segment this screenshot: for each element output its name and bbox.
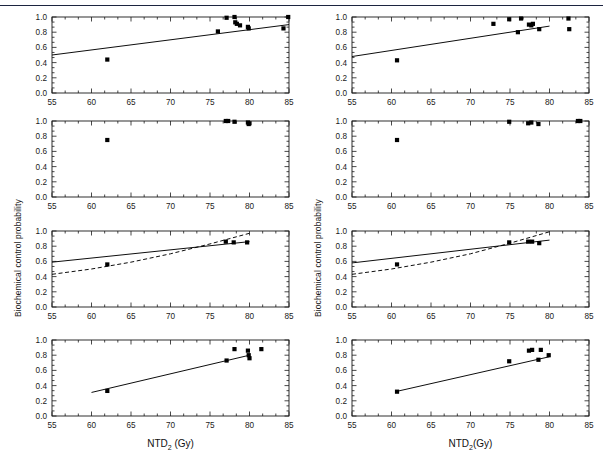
plot-frame <box>352 231 589 307</box>
plot-panel-r1c2: 556065707580850.00.20.40.60.81.0 <box>322 11 597 109</box>
y-tick-label: 0.8 <box>336 28 348 37</box>
data-point-marker <box>519 16 523 20</box>
y-tick-label: 1.0 <box>36 13 48 22</box>
y-tick-label: 1.0 <box>336 336 348 345</box>
fit-line-solid <box>395 357 549 392</box>
x-tick-label: 60 <box>87 421 97 430</box>
x-tick-label: 75 <box>205 202 215 211</box>
data-point-marker <box>246 349 250 353</box>
fit-line-solid <box>52 25 289 55</box>
data-point-marker <box>224 240 228 244</box>
data-point-marker <box>286 15 290 19</box>
x-axis-label-right-column: NTD2(Gy) <box>352 438 589 450</box>
data-point-marker <box>232 15 236 19</box>
data-point-marker <box>259 347 263 351</box>
data-point-marker <box>395 138 399 142</box>
y-tick-label: 0.6 <box>36 257 48 266</box>
data-point-marker <box>105 57 109 61</box>
x-tick-label: 85 <box>284 421 294 430</box>
x-tick-label: 65 <box>126 202 136 211</box>
plot-frame <box>52 121 289 197</box>
x-tick-label: 70 <box>466 312 476 321</box>
y-tick-label: 0.2 <box>36 178 48 187</box>
y-tick-label: 0.0 <box>36 193 48 202</box>
data-point-marker <box>245 240 249 244</box>
x-tick-label: 70 <box>466 202 476 211</box>
y-tick-label: 0.2 <box>336 288 348 297</box>
y-tick-label: 0.4 <box>336 163 348 172</box>
x-tick-label: 75 <box>205 98 215 107</box>
fit-line-solid <box>52 242 250 263</box>
data-point-marker <box>238 23 242 27</box>
x-tick-label: 85 <box>584 202 594 211</box>
x-axis-label-left-column: NTD2 (Gy) <box>52 438 289 450</box>
data-point-marker <box>395 390 399 394</box>
x-tick-label: 70 <box>166 312 176 321</box>
plot-frame <box>52 17 289 93</box>
y-tick-label: 0.6 <box>336 366 348 375</box>
x-tick-label: 65 <box>426 98 436 107</box>
y-tick-label: 0.0 <box>36 412 48 421</box>
x-tick-label: 65 <box>126 421 136 430</box>
y-tick-label: 0.6 <box>336 43 348 52</box>
x-tick-label: 70 <box>166 421 176 430</box>
data-point-marker <box>507 17 511 21</box>
plot-panel-r2c1: 556065707580850.00.20.40.60.81.0 <box>22 115 297 213</box>
data-point-marker <box>566 16 570 20</box>
data-point-marker <box>537 27 541 31</box>
y-tick-label: 0.8 <box>36 132 48 141</box>
fit-line-dashed <box>352 232 550 275</box>
y-tick-label: 0.0 <box>36 89 48 98</box>
x-tick-label: 55 <box>347 421 357 430</box>
x-tick-label: 70 <box>466 421 476 430</box>
x-tick-label: 85 <box>284 312 294 321</box>
data-point-marker <box>507 359 511 363</box>
x-axis-label-right-unit: (Gy) <box>473 438 492 449</box>
data-point-marker <box>536 122 540 126</box>
data-point-marker <box>395 58 399 62</box>
data-point-marker <box>507 120 511 124</box>
x-axis-label-left-base: NTD <box>147 438 168 449</box>
y-tick-label: 0.4 <box>36 273 48 282</box>
x-tick-label: 80 <box>245 202 255 211</box>
x-tick-label: 85 <box>584 98 594 107</box>
y-tick-label: 0.8 <box>36 242 48 251</box>
y-tick-label: 0.0 <box>336 303 348 312</box>
y-tick-label: 1.0 <box>336 227 348 236</box>
data-point-marker <box>530 348 534 352</box>
y-tick-label: 0.8 <box>36 351 48 360</box>
x-tick-label: 75 <box>505 202 515 211</box>
data-point-marker <box>226 119 230 123</box>
y-tick-label: 0.2 <box>336 178 348 187</box>
x-tick-label: 75 <box>505 421 515 430</box>
y-tick-label: 0.4 <box>336 59 348 68</box>
data-point-marker <box>105 138 109 142</box>
x-tick-label: 85 <box>284 98 294 107</box>
data-point-marker <box>507 240 511 244</box>
x-tick-label: 60 <box>387 312 397 321</box>
figure-biochemical-control-vs-ntd2: Biochemical control probability Biochemi… <box>0 0 603 450</box>
data-point-marker <box>529 120 533 124</box>
x-tick-label: 55 <box>47 98 57 107</box>
y-tick-label: 0.2 <box>36 397 48 406</box>
data-point-marker <box>578 119 582 123</box>
x-tick-label: 55 <box>47 312 57 321</box>
y-tick-label: 1.0 <box>36 336 48 345</box>
x-tick-label: 85 <box>584 421 594 430</box>
x-tick-label: 80 <box>545 98 555 107</box>
y-tick-label: 0.6 <box>336 257 348 266</box>
y-tick-label: 0.0 <box>336 412 348 421</box>
y-tick-label: 0.6 <box>336 147 348 156</box>
x-tick-label: 75 <box>205 312 215 321</box>
data-point-marker <box>547 353 551 357</box>
x-tick-label: 60 <box>387 202 397 211</box>
y-tick-label: 0.2 <box>336 397 348 406</box>
x-tick-label: 70 <box>466 98 476 107</box>
x-tick-label: 60 <box>387 421 397 430</box>
x-tick-label: 55 <box>47 202 57 211</box>
y-tick-label: 0.8 <box>336 351 348 360</box>
y-tick-label: 0.4 <box>336 382 348 391</box>
x-tick-label: 80 <box>545 202 555 211</box>
data-point-marker <box>539 348 543 352</box>
data-point-marker <box>224 16 228 20</box>
